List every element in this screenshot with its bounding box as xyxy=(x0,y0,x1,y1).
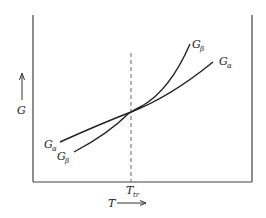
y-axis-label: G xyxy=(17,104,26,117)
label-g-beta-left: G β xyxy=(57,150,69,165)
svg-text:β: β xyxy=(64,157,69,165)
curve-g-alpha xyxy=(60,62,213,142)
svg-text:tr: tr xyxy=(133,191,140,199)
curve-g-beta xyxy=(74,44,190,152)
svg-text:β: β xyxy=(199,45,204,53)
label-g-beta-right: G β xyxy=(192,38,204,53)
gibbs-energy-diagram: G α G β G β G α T tr G T xyxy=(0,0,266,218)
x-axis-label: T xyxy=(108,197,117,210)
svg-text:α: α xyxy=(227,62,232,70)
label-g-alpha-right: G α xyxy=(219,55,232,70)
label-g-alpha-left: G α xyxy=(44,138,57,153)
label-t-tr: T tr xyxy=(126,184,140,199)
